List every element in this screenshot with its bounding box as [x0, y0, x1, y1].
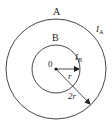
label-current-b: IB — [74, 52, 82, 63]
label-current-a: IA — [95, 24, 104, 35]
label-a: A — [53, 6, 61, 17]
label-radius-r: r — [68, 71, 72, 81]
concentric-loops-diagram: A B 0 IA IB r 2r — [0, 0, 112, 129]
label-radius-2r: 2r — [68, 91, 77, 101]
label-center-o: 0 — [48, 59, 53, 69]
label-b: B — [52, 32, 59, 43]
